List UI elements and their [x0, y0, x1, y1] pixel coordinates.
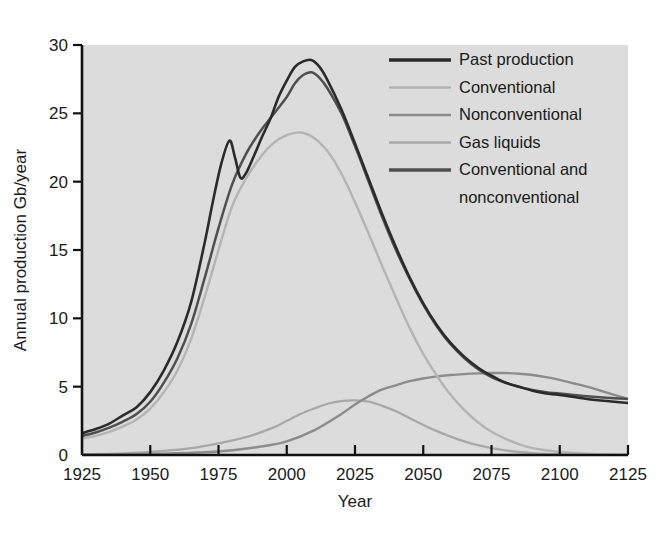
- chart-figure: 0510152025301925195019752000202520502075…: [0, 0, 662, 536]
- y-tick-label: 25: [49, 104, 68, 123]
- legend-label: Nonconventional: [459, 105, 582, 123]
- x-axis-title: Year: [338, 492, 373, 511]
- x-tick-label: 2050: [404, 465, 442, 484]
- y-tick-label: 5: [59, 378, 68, 397]
- y-tick-label: 10: [49, 309, 68, 328]
- y-tick-label: 0: [59, 446, 68, 465]
- legend-label: Conventional and: [459, 160, 587, 178]
- x-tick-label: 1950: [131, 465, 169, 484]
- x-tick-label: 2100: [541, 465, 579, 484]
- x-tick-label: 2025: [336, 465, 374, 484]
- production-line-chart: 0510152025301925195019752000202520502075…: [0, 0, 662, 536]
- x-tick-label: 2075: [473, 465, 511, 484]
- x-tick-label: 2000: [268, 465, 306, 484]
- y-tick-label: 15: [49, 241, 68, 260]
- y-axis-title: Annual production Gb/year: [11, 149, 30, 352]
- legend-label: Past production: [459, 50, 574, 68]
- x-tick-label: 1925: [63, 465, 101, 484]
- y-tick-label: 20: [49, 173, 68, 192]
- x-tick-label: 1975: [200, 465, 238, 484]
- legend-label: Conventional: [459, 78, 555, 96]
- legend-label: nonconventional: [459, 188, 579, 206]
- x-tick-label: 2125: [609, 465, 647, 484]
- legend-label: Gas liquids: [459, 133, 541, 151]
- y-tick-label: 30: [49, 36, 68, 55]
